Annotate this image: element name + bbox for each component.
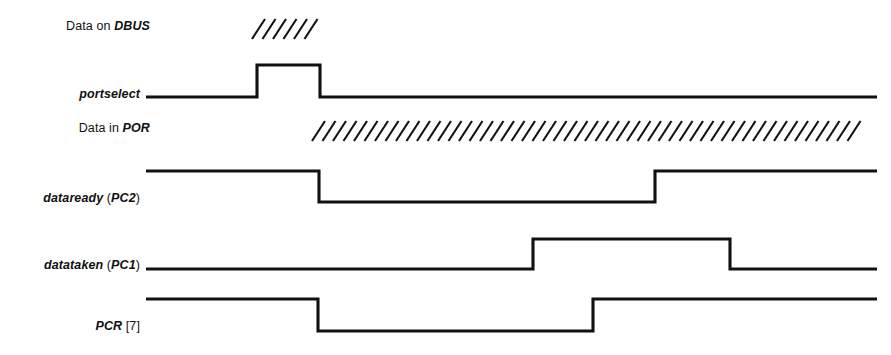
hatch-stroke [795,121,808,141]
hatch-stroke [407,121,420,141]
hatch-band-data-in-por [312,121,861,141]
hatch-stroke [596,121,609,141]
hatch-stroke [470,121,483,141]
hatch-stroke [627,121,640,141]
hatch-stroke [659,121,672,141]
hatch-stroke [575,121,588,141]
hatch-stroke [491,121,504,141]
hatch-stroke [680,121,693,141]
hatch-stroke [344,121,357,141]
timing-diagram: Data on DBUSportselectData in PORdatarea… [0,0,891,355]
waveform-layer [0,0,891,355]
hatch-stroke [764,121,777,141]
hatch-stroke [732,121,745,141]
waveform-portselect [146,65,877,97]
hatch-stroke [827,121,840,141]
hatch-stroke [305,19,318,39]
hatch-stroke [533,121,546,141]
hatch-stroke [273,19,286,39]
hatch-stroke [501,121,514,141]
hatch-stroke [417,121,430,141]
hatch-stroke [753,121,766,141]
hatch-stroke [701,121,714,141]
hatch-stroke [638,121,651,141]
hatch-stroke [354,121,367,141]
hatch-stroke [585,121,598,141]
hatch-stroke [386,121,399,141]
hatch-stroke [564,121,577,141]
hatch-stroke [312,121,325,141]
hatch-stroke [512,121,525,141]
waveform-datataken-pc1 [146,239,877,269]
hatch-stroke [449,121,462,141]
hatch-stroke [252,19,265,39]
hatch-stroke [848,121,861,141]
hatch-stroke [543,121,556,141]
hatch-stroke [294,19,307,39]
hatch-stroke [743,121,756,141]
hatch-stroke [617,121,630,141]
hatch-stroke [365,121,378,141]
hatch-stroke [648,121,661,141]
hatch-stroke [375,121,388,141]
hatch-stroke [669,121,682,141]
hatch-band-data-on-dbus [252,19,318,39]
hatch-stroke [428,121,441,141]
hatch-stroke [438,121,451,141]
hatch-stroke [396,121,409,141]
hatch-stroke [690,121,703,141]
hatch-stroke [284,19,297,39]
hatch-stroke [774,121,787,141]
hatch-stroke [722,121,735,141]
hatch-stroke [480,121,493,141]
hatch-stroke [263,19,276,39]
hatch-stroke [785,121,798,141]
hatch-stroke [806,121,819,141]
hatch-stroke [816,121,829,141]
waveform-pcr-7 [146,299,877,331]
hatch-stroke [554,121,567,141]
hatch-stroke [837,121,850,141]
hatch-stroke [711,121,724,141]
hatch-stroke [606,121,619,141]
hatch-stroke [522,121,535,141]
hatch-stroke [333,121,346,141]
hatch-stroke [323,121,336,141]
hatch-stroke [459,121,472,141]
waveform-dataready-pc2 [146,171,877,202]
